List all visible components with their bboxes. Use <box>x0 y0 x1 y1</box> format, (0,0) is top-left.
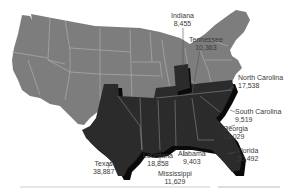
label-south-carolina: South Carolina 9,519 <box>235 108 281 123</box>
indiana <box>174 64 190 92</box>
label-indiana-value: 8,455 <box>171 20 194 28</box>
label-south-carolina-name: South Carolina <box>235 108 281 115</box>
label-mississippi-name: Mississippi <box>158 170 192 177</box>
label-georgia: Georgia 14,029 <box>223 125 248 140</box>
label-indiana: Indiana 8,455 <box>171 12 194 27</box>
label-louisiana: Louisiana 18,858 <box>143 152 173 167</box>
label-florida: Florida 30,492 <box>237 147 258 162</box>
label-tennessee: Tennessee 10,363 <box>189 36 223 51</box>
label-tennessee-value: 10,363 <box>189 44 223 52</box>
label-south-carolina-value: 9,519 <box>235 116 281 124</box>
label-tennessee-name: Tennessee <box>189 36 223 43</box>
label-florida-name: Florida <box>237 147 258 154</box>
label-georgia-value: 14,029 <box>223 133 248 141</box>
label-texas-value: 38,887 <box>93 168 114 176</box>
label-louisiana-value: 18,858 <box>143 160 173 168</box>
label-north-carolina: North Carolina 17,538 <box>238 74 283 89</box>
label-alabama-value: 9,403 <box>178 158 206 166</box>
label-alabama: Alabama 9,403 <box>178 150 206 165</box>
label-georgia-name: Georgia <box>223 125 248 132</box>
label-alabama-name: Alabama <box>178 150 206 157</box>
label-texas: Texas 38,887 <box>93 160 114 175</box>
label-mississippi-value: 11,629 <box>158 178 192 186</box>
label-florida-value: 30,492 <box>237 155 258 163</box>
label-indiana-name: Indiana <box>171 12 194 19</box>
label-mississippi: Mississippi 11,629 <box>158 170 192 185</box>
label-north-carolina-value: 17,538 <box>238 82 283 90</box>
label-texas-name: Texas <box>95 160 113 167</box>
label-louisiana-name: Louisiana <box>143 152 173 159</box>
label-north-carolina-name: North Carolina <box>238 74 283 81</box>
